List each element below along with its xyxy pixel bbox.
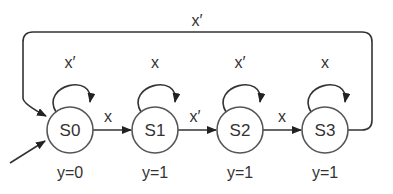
self-loop-label-s3: x (321, 54, 329, 71)
transition-label-s3-s0: x′ (192, 12, 203, 29)
state-label: S1 (145, 121, 166, 140)
state-s3: S3 y=1 (302, 107, 348, 181)
state-output: y=0 (57, 164, 83, 181)
state-output: y=1 (312, 164, 338, 181)
state-s1: S1 y=1 (132, 107, 178, 181)
state-label: S0 (60, 121, 81, 140)
self-loop-label-s2: x′ (235, 54, 246, 71)
transition-label-s2-s3: x (278, 108, 286, 125)
state-label: S2 (230, 121, 251, 140)
self-loop-label-s1: x (151, 54, 159, 71)
state-label: S3 (315, 121, 336, 140)
transition-label-s1-s2: x′ (190, 108, 201, 125)
state-output: y=1 (227, 164, 253, 181)
initial-arrow-icon (10, 141, 45, 163)
state-diagram: x′ x x′ x x′ x x′ x S0 y=0 S1 y=1 S2 y=1… (0, 0, 393, 194)
transition-label-s0-s1: x (104, 108, 112, 125)
state-s2: S2 y=1 (217, 107, 263, 181)
state-output: y=1 (142, 164, 168, 181)
self-loop-label-s0: x′ (65, 54, 76, 71)
state-s0: S0 y=0 (47, 107, 93, 181)
